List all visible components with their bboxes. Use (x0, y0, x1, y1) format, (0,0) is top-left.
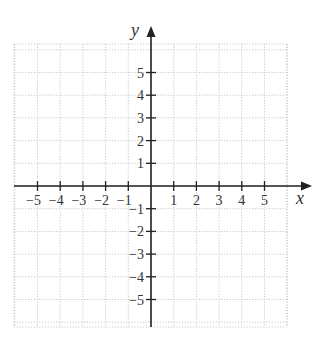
coordinate-plane: x y −5−4−3−2−112345 54321−1−2−3−4−5 (0, 0, 324, 342)
y-tick-label: −3 (129, 247, 144, 262)
x-tick-label: 1 (170, 193, 177, 208)
x-tick-label: −5 (26, 193, 41, 208)
x-tick-label: 5 (261, 193, 268, 208)
x-tick-label: −3 (71, 193, 86, 208)
y-tick-label: −2 (129, 224, 144, 239)
y-tick-label: 1 (137, 156, 144, 171)
x-ticks: −5−4−3−2−112345 (26, 181, 268, 208)
x-tick-label: −4 (49, 193, 64, 208)
x-axis-label: x (295, 188, 304, 208)
y-tick-label: 2 (137, 134, 144, 149)
y-tick-label: 4 (137, 88, 144, 103)
x-tick-label: −2 (94, 193, 109, 208)
y-tick-label: 3 (137, 111, 144, 126)
y-axis-label: y (129, 20, 139, 40)
y-tick-label: −1 (129, 202, 144, 217)
y-tick-label: 5 (137, 66, 144, 81)
x-tick-label: 4 (238, 193, 245, 208)
x-tick-label: 3 (216, 193, 223, 208)
x-tick-label: 2 (193, 193, 200, 208)
y-axis-arrow-icon (147, 26, 156, 37)
y-tick-label: −4 (129, 270, 144, 285)
y-tick-label: −5 (129, 293, 144, 308)
